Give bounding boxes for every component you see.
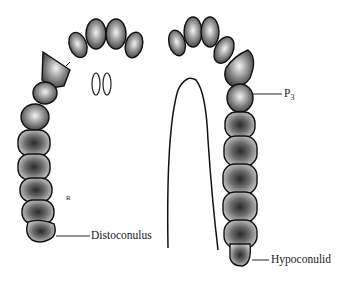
label-distoconulus: Distoconulus: [91, 230, 152, 242]
tooth-molar: [224, 136, 257, 166]
tooth-incisor: [106, 19, 126, 49]
upper-arch: [18, 19, 146, 242]
tooth-molar: [18, 154, 50, 180]
tooth-molar: [18, 130, 50, 156]
tooth-premolar: [33, 82, 57, 104]
tooth-premolar-p3: [227, 84, 253, 112]
label-side-mark: R: [66, 195, 71, 202]
incisive-foramina: [92, 73, 111, 95]
tooth-molar: [20, 178, 52, 202]
label-hypoconulid: Hypoconulid: [271, 254, 331, 266]
tooth-molar: [223, 192, 257, 222]
label-p3: P3: [284, 88, 294, 102]
lower-arch: [166, 17, 257, 266]
mandible-outline: [168, 78, 218, 250]
tooth-incisor: [86, 19, 106, 49]
tooth-molar: [223, 164, 257, 194]
tooth-molar-distoconulus: [27, 220, 55, 242]
tooth-incisor: [184, 17, 202, 47]
tooth-premolar: [21, 104, 49, 130]
dental-arches-diagram: [0, 0, 347, 284]
tooth-premolar: [225, 112, 255, 138]
tooth-incisor: [201, 17, 219, 47]
tooth-molar-hypoconulid: [230, 244, 250, 266]
